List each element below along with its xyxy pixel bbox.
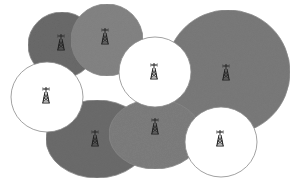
cell-left-white — [11, 62, 83, 132]
coverage-map-svg — [0, 0, 298, 189]
cells-layer — [11, 4, 290, 178]
cell-center-white — [119, 37, 191, 107]
cell-bottom-right-white — [185, 107, 257, 177]
coverage-cell — [119, 37, 191, 107]
cellular-coverage-diagram — [0, 0, 298, 189]
